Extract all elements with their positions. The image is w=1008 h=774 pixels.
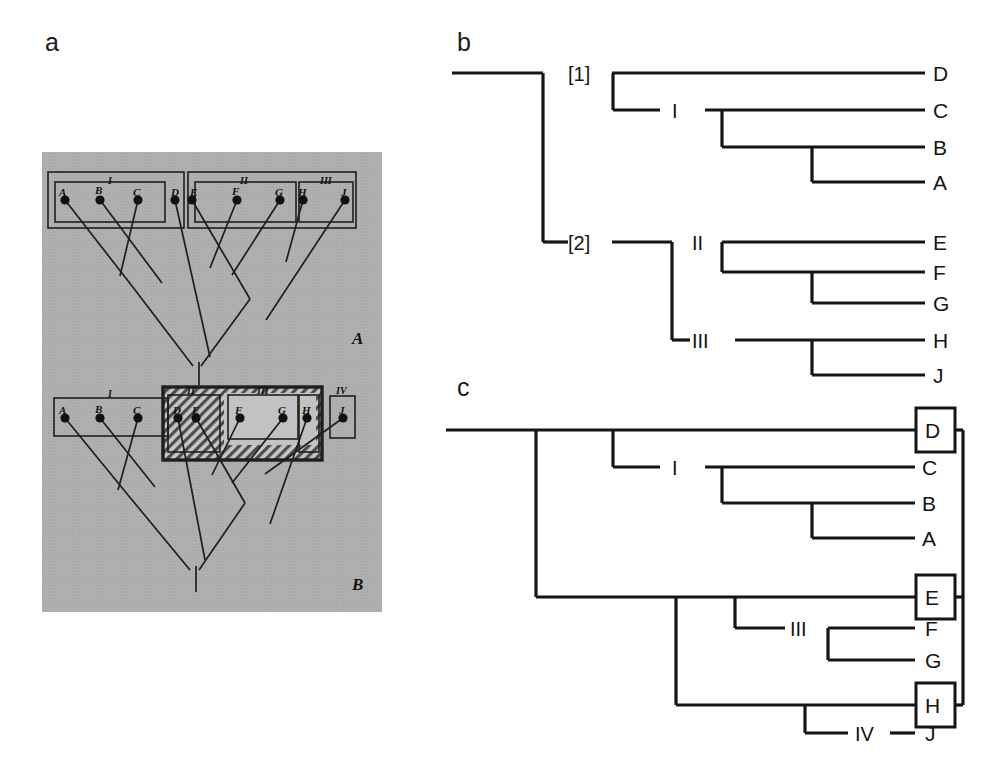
panel-c-label-F: F	[925, 617, 938, 640]
panel-c-label-H: H	[925, 694, 940, 717]
panel-c-label-D: D	[925, 419, 940, 442]
panel-c-label-J: J	[925, 722, 936, 745]
panel-c-node-label-IV: IV	[855, 723, 875, 745]
figure-root: a b c	[0, 0, 1008, 774]
panel-c-node-labels: I III IV	[672, 457, 875, 745]
panel-c-label-G: G	[925, 649, 941, 672]
panel-c-label-E: E	[925, 586, 939, 609]
panel-c-node-label-III: III	[790, 618, 807, 640]
panel-c-graphic: D C B A E F G H J I III IV	[0, 0, 1008, 774]
panel-c-label-A: A	[922, 527, 936, 550]
panel-c-label-C: C	[922, 456, 937, 479]
panel-c-connector-bracket	[955, 430, 963, 705]
panel-c-label-B: B	[922, 492, 936, 515]
panel-c-branches	[446, 430, 963, 733]
panel-c-node-label-I: I	[672, 457, 678, 479]
